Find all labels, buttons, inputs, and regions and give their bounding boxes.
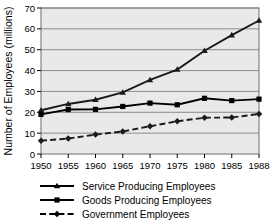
- legend-label: Goods Producing Employees: [82, 195, 212, 206]
- legend-item[interactable]: Government Employees: [40, 209, 189, 220]
- data-point-marker: [229, 98, 234, 103]
- x-axis-tick-labels: 195019551960196519701975198019851988: [30, 160, 269, 171]
- chart-legend: Service Producing EmployeesGoods Produci…: [40, 181, 215, 220]
- data-point-marker: [93, 107, 98, 112]
- x-tick-label: 1965: [112, 160, 133, 171]
- x-axis-tick-marks: [41, 154, 259, 158]
- data-point-marker: [202, 96, 207, 101]
- y-tick-label: 10: [24, 128, 35, 139]
- x-tick-label: 1980: [194, 160, 215, 171]
- y-axis-tick-labels: 010203040506070: [24, 3, 35, 160]
- y-tick-label: 50: [24, 44, 35, 55]
- x-tick-label: 1970: [139, 160, 160, 171]
- y-tick-label: 20: [24, 107, 35, 118]
- legend-label: Government Employees: [82, 209, 189, 220]
- data-point-marker: [66, 107, 71, 112]
- y-axis-title: Number of Employees (millions): [2, 7, 14, 156]
- data-point-marker: [54, 211, 61, 218]
- y-tick-label: 30: [24, 86, 35, 97]
- data-point-marker: [54, 197, 59, 202]
- legend-item[interactable]: Service Producing Employees: [40, 181, 215, 192]
- data-point-marker: [38, 112, 43, 117]
- data-point-marker: [256, 97, 261, 102]
- x-tick-label: 1950: [30, 160, 51, 171]
- y-tick-label: 70: [24, 3, 35, 14]
- x-tick-label: 1975: [167, 160, 188, 171]
- chart-canvas: 010203040506070 195019551960196519701975…: [0, 0, 276, 224]
- data-point-marker: [147, 101, 152, 106]
- x-tick-label: 1955: [58, 160, 79, 171]
- x-tick-label: 1988: [248, 160, 269, 171]
- legend-item[interactable]: Goods Producing Employees: [40, 195, 212, 206]
- y-axis-tick-marks: [37, 8, 41, 154]
- line-chart: 010203040506070 195019551960196519701975…: [0, 0, 276, 224]
- x-tick-label: 1960: [85, 160, 106, 171]
- y-tick-label: 40: [24, 65, 35, 76]
- x-tick-label: 1985: [221, 160, 242, 171]
- data-point-marker: [120, 104, 125, 109]
- y-tick-label: 0: [30, 149, 35, 160]
- y-tick-label: 60: [24, 23, 35, 34]
- legend-label: Service Producing Employees: [82, 181, 215, 192]
- data-point-marker: [175, 102, 180, 107]
